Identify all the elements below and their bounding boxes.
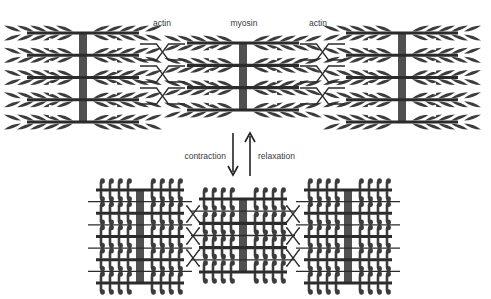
myosin-head-tip (377, 225, 382, 231)
myosin-head-tip (127, 243, 132, 249)
myosin-head-tip (203, 187, 208, 193)
myosin-head-tip (160, 266, 165, 272)
myosin-head-tip (263, 212, 268, 218)
myosin-head-tip (317, 201, 322, 207)
myosin-head-tip (109, 201, 114, 207)
myosin-head-tip (127, 266, 132, 272)
myosin-head-tip (377, 201, 382, 207)
relaxed-state (4, 25, 481, 129)
myosin-head-tip (386, 289, 391, 295)
myosin-head-tip (203, 205, 208, 211)
myosin-head-tip (151, 201, 156, 207)
myosin-head-tip (272, 278, 277, 284)
myosin-head-tip (263, 278, 268, 284)
myosin-head-tip (263, 260, 268, 266)
myosin-head-tip (109, 248, 114, 254)
myosin-head-tip (263, 205, 268, 211)
myosin-head-tip (160, 271, 165, 277)
myosin-head-tip (100, 201, 105, 207)
actin-connector (186, 206, 193, 222)
myosin-head-tip (118, 289, 123, 295)
myosin-head-tip (160, 243, 165, 249)
myosin-head-tip (127, 196, 132, 202)
myosin-head-tip (263, 230, 268, 236)
myosin-head-tip (308, 266, 313, 272)
myosin-head-tip (203, 278, 208, 284)
myosin-head-tip (272, 260, 277, 266)
myosin-head-tip (386, 225, 391, 231)
myosin-head-tip (100, 248, 105, 254)
myosin-head-tip (178, 201, 183, 207)
actin-connector (293, 206, 300, 222)
myosin-head-tip (272, 254, 277, 260)
myosin-head-tip (281, 236, 286, 242)
myosin-head-tip (386, 196, 391, 202)
myosin-head-tip (178, 219, 183, 225)
myosin-head-tip (151, 248, 156, 254)
myosin-head-tip (272, 205, 277, 211)
myosin-head-tip (317, 289, 322, 295)
myosin-head-tip (335, 178, 340, 184)
myosin-head-tip (359, 225, 364, 231)
myosin-head-tip (272, 230, 277, 236)
myosin-head-tip (326, 243, 331, 249)
myosin-head-tip (109, 196, 114, 202)
actin-connector (286, 206, 293, 222)
diagram-canvas: actin myosin actin contraction relaxatio… (0, 0, 491, 299)
myosin-head-tip (160, 248, 165, 254)
myosin-head-tip (100, 289, 105, 295)
actin-connector (286, 250, 293, 266)
myosin-head-tip (212, 205, 217, 211)
myosin-head-tip (326, 201, 331, 207)
myosin-head-tip (169, 243, 174, 249)
myosin-head-tip (109, 219, 114, 225)
myosin-head-tip (178, 266, 183, 272)
actin-connector (186, 250, 193, 266)
myosin-head-tip (178, 243, 183, 249)
myosin-head-tip (118, 225, 123, 231)
myosin-head-tip (230, 187, 235, 193)
myosin-head-tip (326, 266, 331, 272)
myosin-head-tip (109, 271, 114, 277)
myosin-head-tip (212, 260, 217, 266)
actin-right-block (323, 25, 481, 129)
myosin-head-tip (281, 230, 286, 236)
transition-arrows (228, 133, 255, 176)
myosin-head-tip (230, 212, 235, 218)
myosin-head-tip (326, 225, 331, 231)
myosin-head-tip (368, 243, 373, 249)
myosin-head-tip (326, 289, 331, 295)
myosin-head-tip (272, 187, 277, 193)
myosin-head-tip (109, 266, 114, 272)
myosin-head-tip (317, 248, 322, 254)
myosin-head-tip (203, 254, 208, 260)
myosin-head-tip (335, 289, 340, 295)
myosin-head-tip (109, 243, 114, 249)
myosin-head-tip (326, 248, 331, 254)
myosin-head-tip (359, 266, 364, 272)
myosin-head-tip (386, 271, 391, 277)
myosin-head-tip (326, 178, 331, 184)
myosin-head-tip (221, 230, 226, 236)
myosin-block (164, 35, 322, 117)
myosin-head-tip (151, 266, 156, 272)
myosin-head-tip (100, 178, 105, 184)
myosin-head-tip (317, 178, 322, 184)
myosin-head-tip (203, 212, 208, 218)
myosin-head-tip (386, 248, 391, 254)
myosin-head-tip (100, 196, 105, 202)
myosin-head-tip (160, 178, 165, 184)
myosin-head-tip (317, 243, 322, 249)
myosin-head-tip (169, 289, 174, 295)
myosin-head-tip (377, 271, 382, 277)
myosin-head-tip (359, 271, 364, 277)
myosin-head-tip (160, 225, 165, 231)
myosin-head-tip (335, 248, 340, 254)
label-relaxation: relaxation (258, 151, 295, 161)
myosin-head-tip (127, 178, 132, 184)
myosin-head-tip (335, 271, 340, 277)
myosin-head-tip (308, 271, 313, 277)
myosin-block (191, 187, 295, 284)
myosin-head-tip (203, 260, 208, 266)
myosin-head-tip (109, 289, 114, 295)
